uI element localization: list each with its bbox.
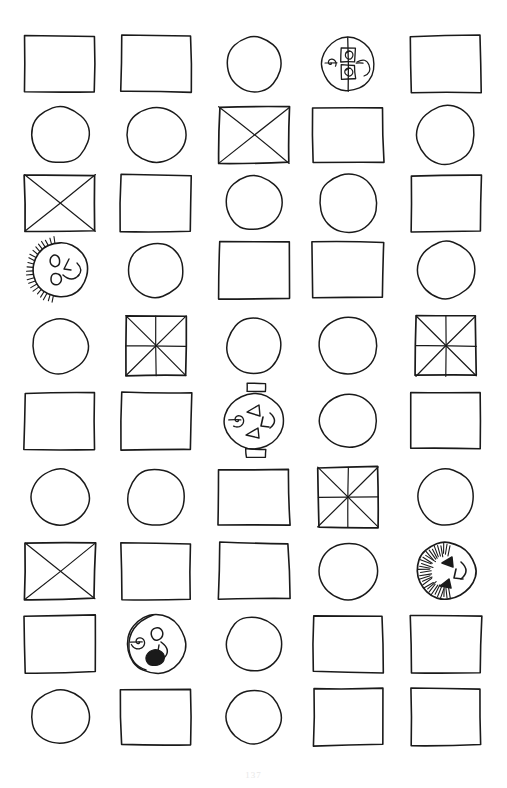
shape-cell-r9c3[interactable]: circle — [226, 617, 281, 671]
shape-cell-r9c2[interactable]: blob-face — [127, 614, 185, 673]
shape-cell-r7c4[interactable]: star-square — [318, 466, 379, 527]
shape-cell-r3c1[interactable]: x-square — [24, 175, 95, 232]
shape-cell-r2c3[interactable]: x-square — [219, 107, 290, 164]
shape-cell-r2c1[interactable]: circle — [32, 106, 90, 162]
shape-cell-r8c2[interactable]: rectangle — [121, 543, 191, 600]
shape-cell-r5c3[interactable]: circle — [227, 318, 281, 373]
shape-cell-r5c2[interactable]: star-square — [126, 316, 187, 376]
shape-cell-r10c3[interactable]: circle — [226, 690, 281, 744]
shape-cell-r6c2[interactable]: rectangle — [121, 392, 192, 450]
shape-cell-r9c1[interactable]: rectangle — [24, 615, 95, 673]
shape-cell-r5c5[interactable]: star-square — [415, 316, 476, 377]
shape-cell-r4c1[interactable]: smiley-face — [26, 237, 87, 303]
shape-cell-r7c2[interactable]: circle — [128, 470, 185, 526]
shape-cell-r10c5[interactable]: rectangle — [411, 688, 481, 746]
shape-cell-r6c5[interactable]: rectangle — [411, 393, 481, 449]
shape-cell-r1c4[interactable]: gear-circle — [321, 37, 373, 91]
shape-cell-r3c4[interactable]: circle — [320, 174, 377, 233]
shape-cell-r10c2[interactable]: rectangle — [120, 689, 191, 745]
shape-cell-r8c4[interactable]: circle — [319, 543, 378, 600]
shape-cell-r8c1[interactable]: x-square — [24, 543, 95, 600]
shape-cell-r4c5[interactable]: circle — [417, 241, 474, 299]
shape-cell-r2c2[interactable]: circle — [127, 108, 186, 163]
shape-cell-r5c1[interactable]: circle — [33, 319, 89, 374]
shape-cell-r1c3[interactable]: circle — [227, 37, 281, 92]
shape-cell-r1c2[interactable]: rectangle — [121, 35, 192, 92]
shape-cell-r6c3[interactable]: jack-o-lantern — [224, 383, 283, 457]
shape-cell-r7c3[interactable]: rectangle — [218, 469, 290, 525]
shape-cell-r3c3[interactable]: circle — [226, 175, 282, 229]
worksheet-page: rectanglerectanglecirclegear-circlerecta… — [0, 0, 507, 788]
shape-cell-r4c4[interactable]: rectangle — [312, 241, 384, 297]
shape-cell-r6c4[interactable]: circle — [319, 394, 376, 447]
shape-cell-r1c5[interactable]: rectangle — [410, 35, 481, 93]
shape-cell-r9c5[interactable]: rectangle — [410, 615, 482, 673]
shape-cell-r7c1[interactable]: circle — [31, 469, 90, 525]
shape-cell-r8c5[interactable]: jack-o-lantern-hatched — [417, 542, 476, 599]
shape-cell-r9c4[interactable]: rectangle — [313, 616, 383, 673]
shape-cell-r4c3[interactable]: rectangle — [219, 242, 290, 300]
shape-cell-r4c2[interactable]: circle — [129, 244, 183, 298]
shape-cell-r3c2[interactable]: rectangle — [120, 174, 191, 232]
shape-cell-r1c1[interactable]: rectangle — [24, 36, 94, 93]
shape-cell-r8c3[interactable]: rectangle — [218, 542, 290, 599]
shape-cell-r2c5[interactable]: circle — [416, 105, 473, 164]
shape-cell-r3c5[interactable]: rectangle — [411, 175, 481, 232]
shape-cell-r10c4[interactable]: rectangle — [313, 688, 383, 746]
shape-cell-r10c1[interactable]: circle — [32, 690, 90, 743]
shape-cell-r2c4[interactable]: rectangle — [312, 108, 384, 163]
shape-cell-r7c5[interactable]: circle — [418, 469, 473, 525]
shape-grid-canvas: rectanglerectanglecirclegear-circlerecta… — [0, 0, 507, 788]
shape-cell-r6c1[interactable]: rectangle — [24, 392, 95, 450]
page-number: 137 — [0, 770, 507, 780]
shape-cell-r5c4[interactable]: circle — [319, 317, 377, 374]
